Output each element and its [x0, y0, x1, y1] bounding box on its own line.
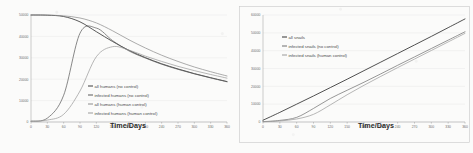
snails-chart-svg: 0100002000030000400005000060000 03060901… — [236, 0, 473, 153]
x-tick-label: 120 — [327, 125, 333, 129]
legend-label: all humans (human control) — [95, 102, 148, 107]
x-tick-label: 60 — [62, 125, 66, 129]
x-tick-label: 90 — [78, 125, 82, 129]
chart-panel-snails: 0100002000030000400005000060000 03060901… — [236, 0, 473, 153]
snails-x-axis-title: Time/Days — [358, 121, 394, 130]
snails-axes — [263, 15, 465, 124]
snails-legend: all snailsinfected snails (no control)in… — [282, 35, 348, 58]
humans-legend: all humans (no control)infected humans (… — [88, 84, 158, 116]
x-tick-label: 150 — [344, 125, 350, 129]
x-tick-label: 330 — [208, 125, 214, 129]
x-tick-label: 240 — [395, 125, 401, 129]
legend-label: all snails — [289, 35, 305, 40]
y-tick-label: 40000 — [19, 35, 29, 39]
figure-sheet: 01000020000300004000050000 0306090120150… — [0, 0, 473, 153]
humans-y-tick-labels: 01000020000300004000050000 — [19, 13, 29, 124]
y-tick-label: 60000 — [251, 13, 261, 17]
humans-axes — [31, 15, 227, 124]
x-tick-label: 360 — [224, 125, 230, 129]
x-tick-label: 0 — [30, 125, 32, 129]
x-tick-label: 120 — [93, 125, 99, 129]
x-tick-label: 30 — [45, 125, 49, 129]
x-tick-label: 0 — [262, 125, 264, 129]
x-tick-label: 30 — [278, 125, 282, 129]
legend-label: infected snails (human control) — [289, 53, 348, 58]
x-tick-label: 330 — [445, 125, 451, 129]
legend-label: all humans (no control) — [95, 84, 139, 89]
y-tick-label: 20000 — [19, 78, 29, 82]
y-tick-label: 30000 — [19, 56, 29, 60]
humans-x-axis-title: Time/Days — [110, 121, 146, 130]
y-tick-label: 20000 — [251, 85, 261, 89]
x-tick-label: 90 — [312, 125, 316, 129]
legend-label: infected humans (no control) — [95, 93, 150, 98]
y-tick-label: 10000 — [251, 102, 261, 106]
legend-label: infected humans (human control) — [95, 111, 158, 116]
y-tick-label: 30000 — [251, 67, 261, 71]
x-tick-label: 360 — [462, 125, 468, 129]
y-tick-label: 50000 — [251, 31, 261, 35]
x-tick-label: 240 — [159, 125, 165, 129]
x-tick-label: 270 — [175, 125, 181, 129]
y-tick-label: 10000 — [19, 99, 29, 103]
y-tick-label: 0 — [27, 120, 29, 124]
x-tick-label: 300 — [191, 125, 197, 129]
humans-chart-svg: 01000020000300004000050000 0306090120150… — [0, 0, 236, 153]
x-tick-label: 300 — [428, 125, 434, 129]
x-tick-label: 60 — [295, 125, 299, 129]
y-tick-label: 50000 — [19, 13, 29, 17]
series-line — [31, 15, 227, 76]
legend-label: infected snails (no control) — [289, 44, 340, 49]
chart-panel-humans: 01000020000300004000050000 0306090120150… — [0, 0, 236, 153]
y-tick-label: 0 — [259, 120, 261, 124]
y-tick-label: 40000 — [251, 49, 261, 53]
x-tick-label: 270 — [412, 125, 418, 129]
snails-y-tick-labels: 0100002000030000400005000060000 — [251, 13, 261, 124]
